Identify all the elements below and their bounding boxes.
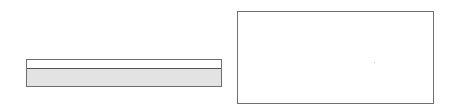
list-area[interactable] [27,69,221,86]
artifact-dot [374,62,375,63]
preview-panel[interactable] [237,11,434,104]
input-widget[interactable] [26,59,222,87]
input-field[interactable] [27,60,221,69]
